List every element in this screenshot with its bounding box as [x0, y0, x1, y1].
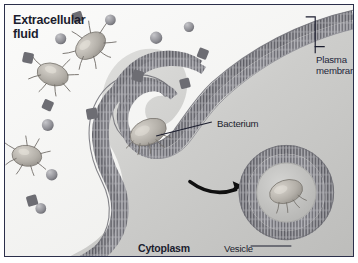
label-cytoplasm: Cytoplasm — [138, 243, 190, 255]
figure-frame: Extracellular fluid Plasma membrane Bact… — [4, 4, 354, 257]
figure-root: Extracellular fluid Plasma membrane Bact… — [0, 0, 358, 263]
label-vesicle: Vesicle — [224, 244, 253, 255]
phagocytic-vesicle — [239, 145, 333, 239]
label-bacterium: Bacterium — [217, 119, 258, 130]
label-extracellular-fluid: Extracellular fluid — [13, 13, 85, 41]
label-plasma-membrane: Plasma membrane — [316, 55, 354, 76]
diagram-scene: Extracellular fluid Plasma membrane Bact… — [5, 5, 353, 256]
diagram-canvas — [5, 5, 353, 256]
